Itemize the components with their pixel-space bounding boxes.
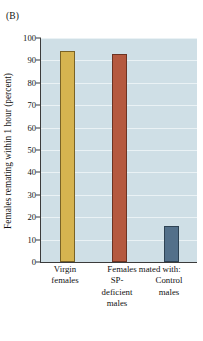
y-tick-label: 90 [27, 55, 36, 65]
y-tick-mark [36, 217, 41, 218]
y-tick-mark [36, 127, 41, 128]
y-tick-label: 50 [27, 145, 36, 155]
y-tick-label: 10 [27, 235, 36, 245]
y-tick-mark [36, 194, 41, 195]
x-axis-label-group: Controlmales [143, 275, 195, 298]
x-axis-group-header: Females mated with: [86, 264, 202, 275]
y-axis-tick-labels: 0102030405060708090100 [14, 38, 38, 262]
x-axis-label-line: males [143, 287, 195, 298]
x-axis-label-line: deficient [91, 287, 143, 298]
x-axis-label-group: SP-deficientmales [91, 275, 143, 309]
y-tick-mark [36, 38, 41, 39]
panel-label: (B) [6, 11, 19, 21]
x-axis-line [40, 262, 197, 263]
y-axis-title: Females remating within 1 hour (percent) [3, 73, 13, 229]
x-axis-label-line: Control [143, 275, 195, 286]
y-tick-label: 30 [27, 190, 36, 200]
y-tick-mark [36, 82, 41, 83]
x-axis-label-line: Virgin [39, 264, 91, 275]
y-tick-mark [36, 60, 41, 61]
y-tick-label: 40 [27, 167, 36, 177]
x-axis-label-group: Virginfemales [39, 264, 91, 287]
y-tick-mark [36, 150, 41, 151]
figure-panel-b: (B) Females remating within 1 hour (perc… [0, 0, 203, 341]
y-tick-label: 100 [23, 33, 36, 43]
x-axis-label-line: females [39, 275, 91, 286]
y-tick-mark [36, 262, 41, 263]
x-axis-label-line: males [91, 298, 143, 309]
bar-3 [164, 226, 179, 262]
x-axis-labels: Females mated with: VirginfemalesSP-defi… [40, 264, 200, 340]
y-tick-label: 70 [27, 100, 36, 110]
y-tick-label: 80 [27, 78, 36, 88]
bar-1 [60, 51, 75, 262]
y-tick-label: 20 [27, 212, 36, 222]
bar-2 [112, 54, 127, 262]
gridline [41, 38, 197, 39]
y-tick-mark [36, 105, 41, 106]
x-axis-label-line: SP- [91, 275, 143, 286]
y-tick-mark [36, 172, 41, 173]
y-tick-label: 60 [27, 123, 36, 133]
y-tick-mark [36, 239, 41, 240]
plot-area [41, 38, 197, 262]
